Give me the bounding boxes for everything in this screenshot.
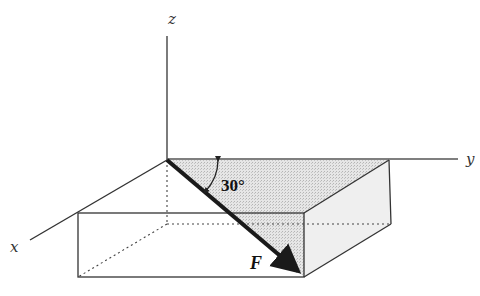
z-axis-label: z (167, 10, 176, 28)
x-axis-label: x (10, 238, 19, 256)
x-axis (30, 160, 167, 240)
force-label: F (249, 253, 262, 273)
force-diagram: z y x 30° F (0, 0, 480, 296)
y-axis-label: y (465, 150, 475, 168)
angle-label: 30° (221, 176, 245, 195)
